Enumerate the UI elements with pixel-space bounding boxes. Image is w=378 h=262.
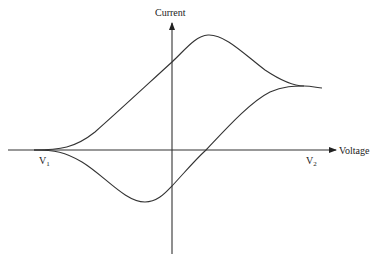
- x-axis-label: Voltage: [339, 145, 370, 156]
- y-axis-label: Current: [155, 7, 186, 18]
- v1-marker: V1: [39, 155, 50, 168]
- v2-subscript: 2: [313, 160, 317, 168]
- v2-marker: V2: [306, 155, 317, 168]
- voltammogram-diagram: Current Voltage V1 V2: [0, 0, 378, 262]
- forward-sweep-curve: [34, 35, 322, 150]
- v1-subscript: 1: [46, 160, 50, 168]
